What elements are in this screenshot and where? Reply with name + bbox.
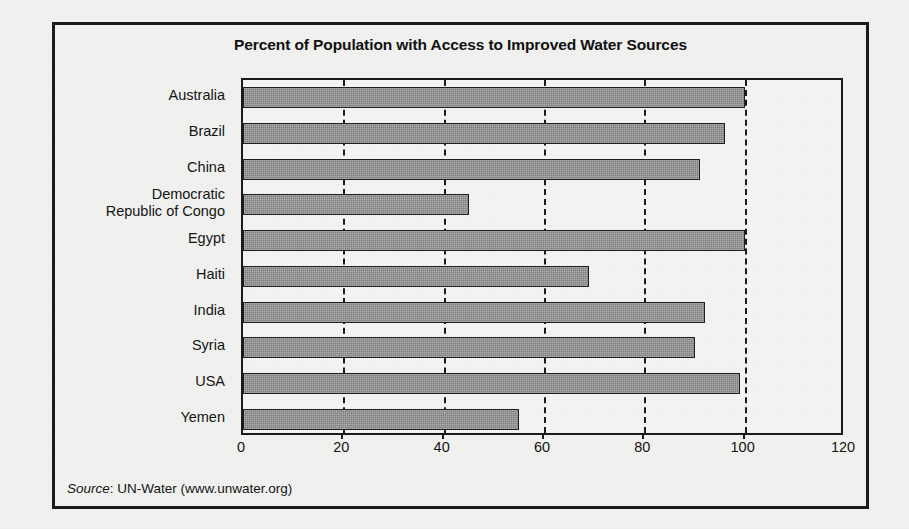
x-tick-label-120: 120 bbox=[831, 439, 855, 455]
bar-brazil bbox=[243, 123, 725, 144]
chart-title: Percent of Population with Access to Imp… bbox=[55, 36, 866, 54]
bar-fill bbox=[243, 194, 469, 215]
plot-area bbox=[241, 78, 843, 435]
category-label-australia: Australia bbox=[169, 87, 225, 104]
bar-haiti bbox=[243, 266, 589, 287]
bar-fill bbox=[243, 302, 705, 323]
bar-fill bbox=[243, 230, 745, 251]
x-axis-ticks: 020406080100120 bbox=[241, 439, 843, 463]
x-tick-mark-20 bbox=[341, 433, 343, 439]
bar-democratic-republic-of-congo bbox=[243, 194, 469, 215]
x-tick-mark-100 bbox=[743, 433, 745, 439]
source-label: Source bbox=[67, 481, 110, 496]
source-text: UN-Water (www.unwater.org) bbox=[117, 481, 292, 496]
bar-usa bbox=[243, 373, 740, 394]
bar-fill bbox=[243, 373, 740, 394]
category-label-democratic-republic-of-congo: Democratic Republic of Congo bbox=[106, 186, 225, 220]
bar-yemen bbox=[243, 409, 519, 430]
category-label-china: China bbox=[187, 159, 225, 176]
x-tick-label-0: 0 bbox=[237, 439, 245, 455]
figure-page: Percent of Population with Access to Imp… bbox=[0, 0, 909, 529]
bar-china bbox=[243, 159, 700, 180]
bar-australia bbox=[243, 87, 745, 108]
x-tick-mark-40 bbox=[442, 433, 444, 439]
bar-fill bbox=[243, 266, 589, 287]
category-label-yemen: Yemen bbox=[180, 409, 225, 426]
bar-fill bbox=[243, 87, 745, 108]
x-tick-label-20: 20 bbox=[333, 439, 349, 455]
bar-india bbox=[243, 302, 705, 323]
category-axis-labels: AustraliaBrazilChinaDemocratic Republic … bbox=[55, 78, 235, 435]
category-label-india: India bbox=[194, 302, 225, 319]
category-label-syria: Syria bbox=[192, 337, 225, 354]
category-label-egypt: Egypt bbox=[188, 230, 225, 247]
bar-fill bbox=[243, 159, 700, 180]
x-tick-label-40: 40 bbox=[434, 439, 450, 455]
source-note: Source: UN-Water (www.unwater.org) bbox=[67, 481, 292, 496]
category-label-usa: USA bbox=[195, 373, 225, 390]
bar-fill bbox=[243, 409, 519, 430]
x-tick-label-100: 100 bbox=[731, 439, 755, 455]
bar-series bbox=[243, 80, 841, 433]
category-label-haiti: Haiti bbox=[196, 266, 225, 283]
bar-egypt bbox=[243, 230, 745, 251]
x-tick-label-60: 60 bbox=[534, 439, 550, 455]
figure-frame: Percent of Population with Access to Imp… bbox=[52, 22, 869, 509]
x-tick-label-80: 80 bbox=[634, 439, 650, 455]
category-label-brazil: Brazil bbox=[189, 123, 225, 140]
bar-fill bbox=[243, 337, 695, 358]
x-tick-mark-80 bbox=[642, 433, 644, 439]
x-tick-mark-60 bbox=[542, 433, 544, 439]
bar-fill bbox=[243, 123, 725, 144]
bar-syria bbox=[243, 337, 695, 358]
